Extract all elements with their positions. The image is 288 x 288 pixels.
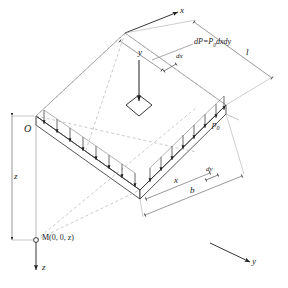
formula-dxdy: dxdy [216,37,231,46]
axis-y [210,243,250,262]
dimension-b-label: b [190,186,195,195]
dimension-x-label: x [174,176,178,185]
dimension-dy [206,175,218,180]
axis-x-label: x [180,6,184,15]
axis-y-label: y [252,257,256,266]
p0-leader-line [226,114,239,120]
origin-label: O [24,124,31,134]
dimension-dx-label: dx [176,53,183,60]
slab-top-face [36,33,226,190]
axis-z-label: z [42,263,46,272]
point-M-label: M(0, 0, z) [42,234,74,242]
load-formula: dP=P0dxdy [194,38,231,48]
dimension-l-label: l [246,48,249,57]
dimension-z-label: z [14,172,18,181]
load-intensity-label: p0 [212,120,220,131]
formula-leader-line [152,44,193,60]
load-intensity-subscript: 0 [217,125,220,131]
dimension-y-label: y [138,48,142,57]
foundation-slab-diagram [0,0,288,288]
point-M-marker [34,238,39,243]
axis-x [125,12,178,33]
dimension-dy-label: dy [206,166,213,173]
figure-canvas: x y z O M(0, 0, z) z l y b x dx dy p0 dP… [0,0,288,288]
